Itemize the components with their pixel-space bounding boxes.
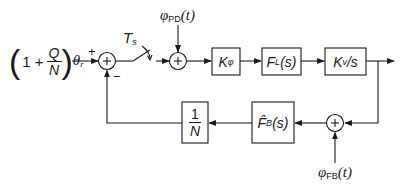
phi-fb-label: φFB(t)	[318, 165, 352, 181]
block-diagram-canvas	[0, 0, 404, 186]
inv-n-denominator: N	[190, 123, 200, 138]
sampling-period-label: Ts	[123, 30, 137, 47]
k-phi-label: Kφ	[212, 48, 240, 75]
one-plus: 1 +	[22, 54, 43, 69]
theta-r: θr	[73, 53, 84, 69]
paren-open: (	[9, 44, 20, 78]
one-over-n-fraction: 1 N	[189, 107, 201, 138]
inv-n-numerator: 1	[189, 107, 201, 123]
inverse-n-label: 1 N	[182, 102, 208, 143]
input-expression: ( 1 + Q N ) θr	[9, 44, 84, 78]
paren-close: )	[62, 44, 73, 78]
minus-sign-label: −	[113, 70, 121, 83]
phi-pd-label: φPD(t)	[160, 8, 195, 24]
frac-denominator: N	[49, 62, 59, 77]
q-over-n-fraction: Q N	[47, 46, 62, 77]
f-l-label: FL(s)	[262, 48, 301, 75]
kv-s-label: Kv/s	[325, 48, 366, 75]
plus-sign-label: +	[88, 45, 96, 58]
frac-numerator: Q	[47, 46, 62, 62]
f-b-label: F̂B(s)	[252, 102, 294, 143]
